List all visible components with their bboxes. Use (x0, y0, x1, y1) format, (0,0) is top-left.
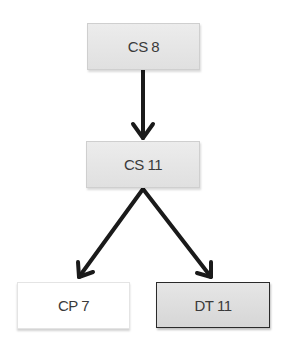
node-label: CP 7 (58, 297, 89, 314)
node-label: CS 8 (128, 38, 159, 55)
arrow-cs8-to-cs11 (133, 70, 153, 138)
arrow-cs11-to-dt11 (143, 189, 211, 277)
node-label: DT 11 (195, 297, 232, 314)
node-cs8: CS 8 (87, 23, 200, 70)
arrow-cs11-to-cp7 (78, 189, 143, 277)
node-cp7: CP 7 (17, 282, 130, 329)
node-dt11: DT 11 (156, 282, 270, 328)
node-cs11: CS 11 (86, 141, 200, 188)
node-label: CS 11 (124, 156, 162, 173)
